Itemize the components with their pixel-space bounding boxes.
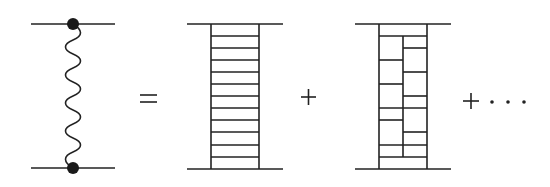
left-rungs xyxy=(379,60,403,120)
ladder-diagram-split xyxy=(355,24,451,169)
equals-sign xyxy=(140,95,157,102)
ladder-diagram-simple xyxy=(187,24,283,169)
bottom-vertex-dot xyxy=(67,162,79,174)
wavy-propagator xyxy=(66,24,81,168)
ladder-rungs xyxy=(211,36,259,157)
ellipsis xyxy=(490,100,526,104)
top-vertex-dot xyxy=(67,18,79,30)
plus-sign-1 xyxy=(301,89,316,105)
diagram-canvas xyxy=(0,0,550,187)
lhs-wavy-exchange xyxy=(31,18,115,174)
plus-sign-2 xyxy=(463,93,479,109)
right-rungs xyxy=(403,48,427,132)
